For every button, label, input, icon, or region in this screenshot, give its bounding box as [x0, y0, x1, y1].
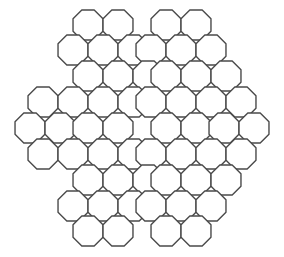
- octagon-tile: [73, 216, 103, 246]
- octagon-tile: [28, 139, 58, 169]
- octagon-tiling-figure: Hexagonal octagon tiling snowflake Hexag…: [0, 0, 284, 257]
- octagon-tile: [103, 216, 133, 246]
- octagon-tile: [181, 216, 211, 246]
- octagon-tile: [151, 216, 181, 246]
